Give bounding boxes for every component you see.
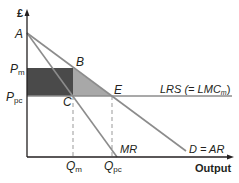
point-e-label: E	[114, 83, 123, 97]
monopoly-profit-area	[27, 68, 73, 96]
pm-label: Pm	[10, 62, 25, 77]
demand-label: D = AR	[189, 143, 224, 155]
y-axis-arrow-icon	[25, 9, 30, 16]
qpc-label: Qpc	[104, 159, 122, 174]
ppc-label: Ppc	[6, 90, 22, 105]
x-axis-label: Output	[195, 162, 231, 174]
y-axis-label: £	[17, 7, 23, 19]
x-axis-arrow-icon	[227, 155, 234, 160]
point-c-label: C	[63, 95, 72, 109]
point-b-label: B	[76, 55, 84, 69]
qm-label: Qm	[66, 159, 82, 174]
point-a-label: A	[14, 27, 23, 41]
mr-label: MR	[120, 143, 137, 155]
lrs-label: LRS (= LMCm)	[160, 83, 230, 96]
monopoly-diagram: £ A B C E Pm Ppc Qm Qpc LRS (= LMCm) MR …	[0, 0, 239, 183]
